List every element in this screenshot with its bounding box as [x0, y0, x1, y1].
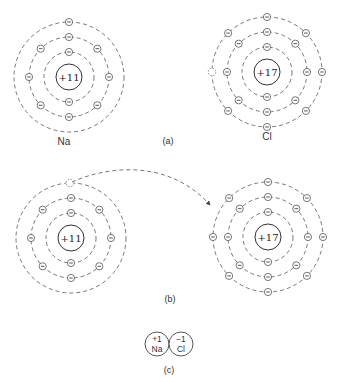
- sodium-atom-b: +11: [16, 179, 126, 293]
- caption-b: (b): [165, 294, 176, 304]
- caption-c: (c): [164, 365, 175, 375]
- chloride-ion-charge: −1: [176, 334, 186, 344]
- chlorine-atom-a: +17: [208, 13, 325, 130]
- ion-pair: +1 Na −1 Cl: [145, 332, 193, 356]
- sodium-ion-charge: +1: [152, 334, 162, 344]
- nucleus-charge: +17: [256, 67, 277, 78]
- vacancy: [208, 68, 216, 76]
- chlorine-label: Cl: [262, 131, 271, 142]
- nucleus-charge: +17: [257, 232, 278, 243]
- nucleus-charge: +11: [60, 233, 81, 244]
- chloride-ion-symbol: Cl: [177, 344, 185, 354]
- sodium-label: Na: [58, 136, 71, 147]
- caption-a: (a): [163, 136, 174, 146]
- chlorine-atom-b: +17: [209, 178, 326, 295]
- ionic-bonding-diagram: +11 Na +17: [0, 0, 337, 382]
- sodium-atom-a: +11: [14, 18, 124, 132]
- departing-electron: [66, 179, 74, 187]
- sodium-ion-symbol: Na: [152, 344, 163, 354]
- nucleus-charge: +11: [58, 72, 79, 83]
